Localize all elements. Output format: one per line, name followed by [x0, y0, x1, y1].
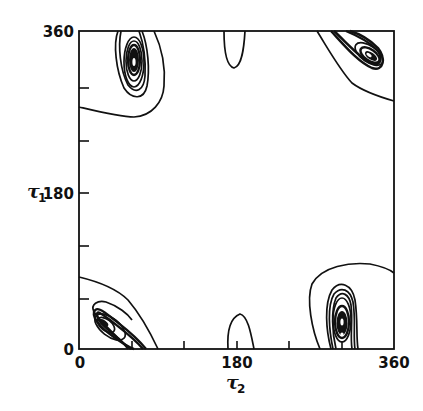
x-axis-ticks — [132, 341, 342, 349]
contour-group-lower-right — [310, 264, 394, 349]
contour-group-lower-left — [79, 277, 158, 349]
x-tick-label-0: 0 — [75, 354, 85, 372]
x-tick-label-360: 360 — [378, 354, 409, 372]
y-axis-ticks — [79, 88, 89, 299]
contour-plot: 360 180 0 0 180 360 τ 1 τ 2 — [0, 0, 423, 411]
x-tick-label-180: 180 — [221, 354, 252, 372]
y-tick-label-360: 360 — [43, 23, 74, 41]
y-axis-title: τ 1 — [27, 180, 46, 205]
svg-text:1: 1 — [38, 191, 46, 205]
contour-bottom-center-lobe — [228, 314, 254, 349]
contour-group-upper-right — [317, 31, 394, 101]
x-axis-title: τ 2 — [226, 371, 245, 396]
contour-top-center-lobe — [224, 31, 245, 68]
y-tick-label-180: 180 — [43, 185, 74, 203]
y-tick-label-0: 0 — [64, 341, 74, 359]
contour-group-upper-left — [79, 31, 164, 117]
svg-text:2: 2 — [237, 382, 245, 396]
